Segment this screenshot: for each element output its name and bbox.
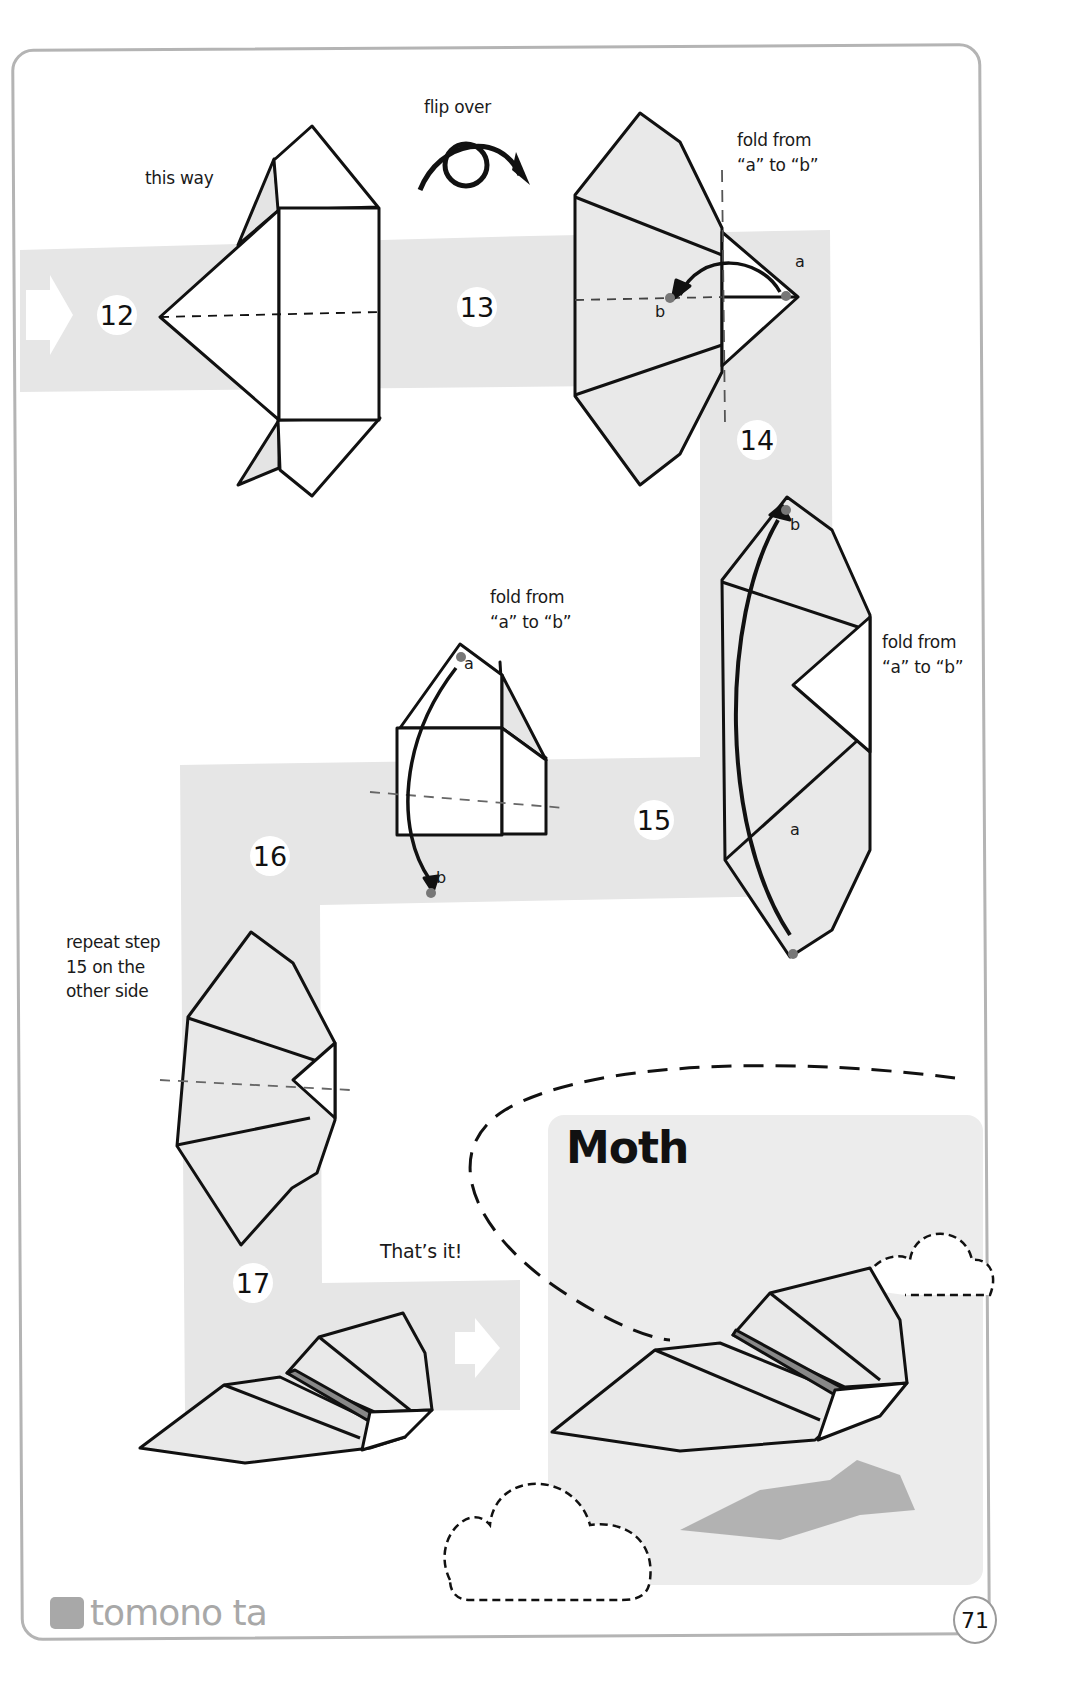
- step16-note: fold from “a” to “b”: [490, 585, 571, 634]
- point-b-label: b: [790, 513, 800, 536]
- step17-note-line2: 15 on the: [66, 955, 160, 980]
- step17-note: repeat step 15 on the other side: [66, 930, 160, 1004]
- step14-note-line2: “a” to “b”: [737, 153, 818, 178]
- page-number: 71: [953, 1596, 997, 1644]
- diagram-canvas: [0, 0, 1068, 1705]
- step-number-15: 15: [634, 800, 674, 840]
- step15-diagram: [722, 497, 870, 959]
- step12-note: this way: [145, 166, 213, 191]
- step14-note-line1: fold from: [737, 128, 818, 153]
- step-number-12: 12: [97, 295, 137, 335]
- brand-mark-icon: [50, 1597, 84, 1629]
- finish-label: That’s it!: [380, 1238, 462, 1266]
- point-b-label: b: [436, 866, 446, 889]
- step15-note: fold from “a” to “b”: [882, 630, 963, 679]
- step-number-17: 17: [233, 1263, 273, 1303]
- step15-note-line1: fold from: [882, 630, 963, 655]
- step17-note-line1: repeat step: [66, 930, 160, 955]
- point-b-label: b: [655, 300, 665, 323]
- step16-note-line2: “a” to “b”: [490, 610, 571, 635]
- step17-note-line3: other side: [66, 979, 160, 1004]
- step-number-13: 13: [457, 287, 497, 327]
- brand-name: tomono ta: [90, 1592, 267, 1633]
- point-a-label: a: [795, 250, 805, 273]
- step15-note-line2: “a” to “b”: [882, 655, 963, 680]
- step-number-14: 14: [737, 420, 777, 460]
- brand-logo: tomono ta: [50, 1592, 267, 1633]
- step16-note-line1: fold from: [490, 585, 571, 610]
- point-a-label: a: [790, 818, 800, 841]
- step14-note: fold from “a” to “b”: [737, 128, 818, 177]
- flip-over-label: flip over: [424, 95, 491, 120]
- step-number-16: 16: [250, 836, 290, 876]
- page-title: Moth: [566, 1122, 688, 1173]
- flip-over-arrow-icon: [420, 144, 530, 190]
- point-a-label: a: [464, 652, 474, 675]
